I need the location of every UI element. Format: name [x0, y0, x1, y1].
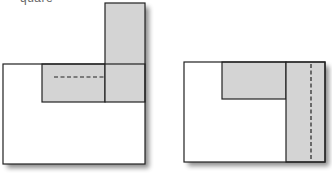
left-figure [3, 3, 145, 164]
right-figure [184, 62, 325, 162]
vertical-strip [105, 3, 145, 102]
diagram-canvas [0, 0, 332, 174]
horizontal-strip [222, 62, 286, 99]
horizontal-strip [42, 64, 105, 102]
vertical-strip [286, 62, 325, 162]
